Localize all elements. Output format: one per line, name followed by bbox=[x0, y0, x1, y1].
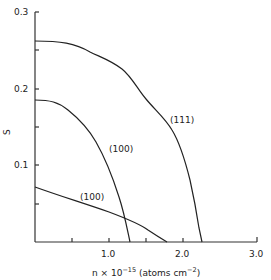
x-axis-title: n × 10−15 (atoms cm−2) bbox=[92, 266, 200, 278]
y-tick-label-0.1: 0.1 bbox=[14, 160, 28, 170]
curve-label-100-lower: (100) bbox=[80, 192, 104, 202]
curve-label-111: (111) bbox=[170, 115, 194, 125]
curve-label-100-upper: (100) bbox=[109, 144, 133, 154]
x-tick-label-1.0: 1.0 bbox=[101, 249, 116, 259]
chart: 0.3 0.2 0.1 1.0 2.0 3.0 S n × 10−15 (ato… bbox=[0, 0, 271, 280]
x-ticks bbox=[72, 237, 257, 242]
curve-100-upper bbox=[35, 100, 130, 242]
y-tick-label-0.3: 0.3 bbox=[14, 7, 28, 17]
x-tick-label-2.0: 2.0 bbox=[175, 249, 190, 259]
y-axis-title: S bbox=[2, 129, 12, 135]
curve-111 bbox=[35, 41, 202, 242]
y-tick-label-0.2: 0.2 bbox=[14, 84, 28, 94]
x-tick-label-3.0: 3.0 bbox=[249, 249, 264, 259]
